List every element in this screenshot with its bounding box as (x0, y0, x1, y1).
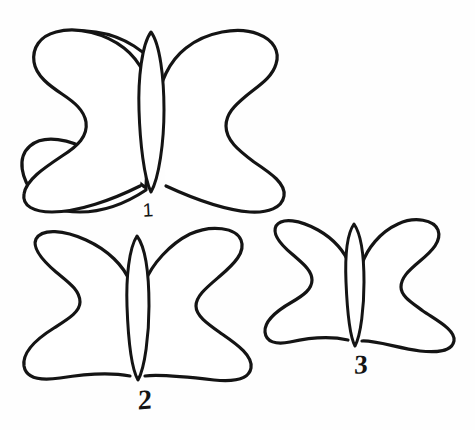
butterfly-2-left-wing (24, 232, 130, 379)
figure-label-2: 2 (138, 385, 152, 414)
butterfly-1-left-wing-outline (24, 30, 152, 212)
butterfly-3-left-wing (265, 221, 349, 343)
butterflies-illustration (0, 0, 475, 430)
figure-label-3: 3 (354, 351, 368, 379)
butterfly-1 (22, 30, 284, 212)
butterfly-2 (24, 228, 251, 380)
drawing-canvas: 1 2 3 (0, 0, 475, 430)
butterfly-2-right-wing (145, 228, 251, 380)
butterfly-1-right-wing (158, 30, 284, 212)
butterfly-3 (265, 220, 454, 352)
butterfly-2-body (127, 236, 149, 380)
butterfly-3-body (346, 224, 364, 346)
figure-label-1: 1 (142, 200, 154, 220)
butterfly-3-right-wing (362, 220, 454, 352)
